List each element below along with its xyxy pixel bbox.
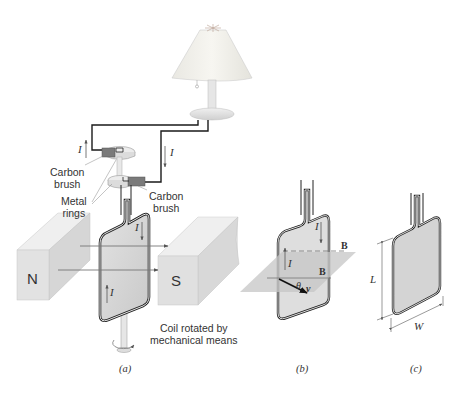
lamp <box>172 24 252 120</box>
current-label-coil-up: I <box>110 286 114 298</box>
ac-generator-diagram: Carbon brush Metal rings Carbon brush Co… <box>0 0 467 393</box>
current-label-b-down: I <box>315 220 319 232</box>
angle-label: θ <box>296 280 301 291</box>
current-label-b-up: I <box>288 257 292 269</box>
coil-c <box>393 193 440 314</box>
coil-b <box>278 180 329 319</box>
label-carbon-brush-right: Carbon brush <box>149 190 183 214</box>
magnet-south-label: S <box>171 272 181 289</box>
current-label-a-up: I <box>78 143 82 155</box>
length-label: L <box>370 273 376 285</box>
carbon-brush-top <box>102 148 115 157</box>
caption-b: (b) <box>296 363 308 374</box>
width-label: W <box>414 320 423 332</box>
carbon-brush-bottom <box>128 177 145 186</box>
caption-c: (c) <box>410 363 422 374</box>
label-carbon-brush-left: Carbon brush <box>50 166 84 190</box>
label-coil-rotated: Coil rotated by mechanical means <box>150 322 238 346</box>
slip-ring-assembly <box>102 147 145 189</box>
caption-a: (a) <box>119 363 131 374</box>
label-metal-rings: Metal rings <box>61 195 87 219</box>
field-vector-label-bottom: B <box>319 266 326 277</box>
current-label-coil-down: I <box>135 221 139 233</box>
field-vector-label-top: B <box>341 240 348 251</box>
current-label-a-down: I <box>170 146 174 158</box>
magnet-south <box>158 217 239 305</box>
velocity-label: v <box>306 283 310 294</box>
magnet-north-label: N <box>27 270 38 287</box>
